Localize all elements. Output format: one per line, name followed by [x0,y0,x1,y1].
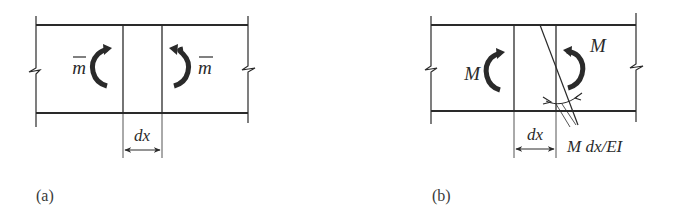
moment-arrow-left-b-icon [486,48,505,90]
moment-label-right-a: m [198,57,212,78]
moment-label-left-a: m [72,57,86,78]
panel-a: dx m m (a) [29,16,255,205]
rotation-arrow-right-b-icon [575,93,582,100]
rotation-label-b: M dx/EI [566,137,624,156]
moment-arrow-right-b-icon [563,46,583,88]
caption-a: (a) [36,187,54,205]
panel-b: dx M dx/EI M M (b) [425,13,643,205]
right-break-line-a [242,16,255,123]
left-break-line-a [29,16,40,127]
rotation-ext-line-1-b [556,104,570,127]
moment-label-right-b: M [589,35,607,56]
left-break-line-b [425,16,437,124]
moment-label-left-b: M [463,63,481,84]
right-break-line-b [630,13,643,122]
moment-arrow-left-a-icon [92,44,112,86]
beam-element-diagram: dx m m (a) [0,0,675,220]
dx-label-b: dx [527,125,544,144]
caption-b: (b) [432,187,451,205]
dx-label-a: dx [134,126,151,145]
moment-arrow-right-a-icon [169,44,189,86]
